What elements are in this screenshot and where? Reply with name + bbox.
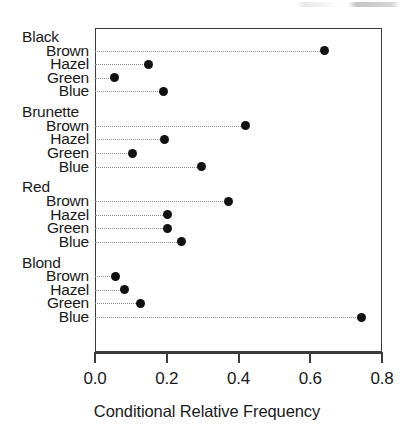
data-point-black-brown xyxy=(320,46,329,55)
x-axis: 0.00.20.40.60.8 xyxy=(95,352,382,353)
data-point-red-brown xyxy=(224,197,233,206)
leader-line xyxy=(95,317,358,318)
leader-line xyxy=(95,64,145,65)
plot-area xyxy=(95,28,382,352)
data-point-blond-green xyxy=(136,299,145,308)
category-label-black-blue: Blue xyxy=(0,83,89,99)
leader-line xyxy=(95,276,112,277)
data-point-brunette-green xyxy=(128,149,137,158)
leader-line xyxy=(95,126,243,127)
x-tick-label-2: 0.4 xyxy=(209,369,269,388)
data-point-brunette-brown xyxy=(241,121,250,130)
scan-artifact xyxy=(296,2,400,7)
leader-line xyxy=(95,201,225,202)
data-point-brunette-hazel xyxy=(160,135,169,144)
data-point-black-hazel xyxy=(144,60,153,69)
data-point-brunette-blue xyxy=(197,162,206,171)
data-point-blond-blue xyxy=(357,313,366,322)
category-label-brunette-blue: Blue xyxy=(0,159,89,175)
leader-line xyxy=(95,215,165,216)
leader-line xyxy=(95,242,179,243)
x-tick-label-1: 0.2 xyxy=(137,369,197,388)
leader-line xyxy=(95,153,129,154)
leader-line xyxy=(95,290,121,291)
leader-line xyxy=(95,78,111,79)
x-axis-title: Conditional Relative Frequency xyxy=(0,402,414,421)
leader-line xyxy=(95,228,165,229)
data-point-black-blue xyxy=(159,87,168,96)
x-tick-label-4: 0.8 xyxy=(352,369,412,388)
x-tick-label-3: 0.6 xyxy=(280,369,340,388)
category-label-blond-blue: Blue xyxy=(0,309,89,325)
x-tick xyxy=(166,352,168,363)
leader-line xyxy=(95,51,322,52)
data-point-red-blue xyxy=(177,237,186,246)
category-label-red-blue: Blue xyxy=(0,234,89,250)
data-point-red-hazel xyxy=(163,210,172,219)
leader-line xyxy=(95,303,138,304)
data-point-blond-hazel xyxy=(120,285,129,294)
x-tick xyxy=(94,352,96,363)
data-point-black-green xyxy=(110,73,119,82)
x-tick xyxy=(309,352,311,363)
dot-plot-figure: BlackBrownHazelGreenBlueBrunetteBrownHaz… xyxy=(0,0,414,447)
data-point-blond-brown xyxy=(111,272,120,281)
leader-line xyxy=(95,167,199,168)
data-point-red-green xyxy=(163,224,172,233)
x-tick xyxy=(238,352,240,363)
leader-line xyxy=(95,91,160,92)
leader-line xyxy=(95,139,162,140)
x-tick xyxy=(381,352,383,363)
x-tick-label-0: 0.0 xyxy=(65,369,125,388)
